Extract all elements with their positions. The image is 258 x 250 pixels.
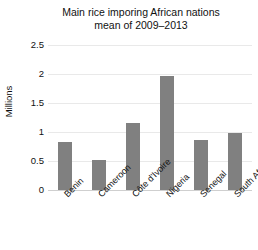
y-axis-tick-label: 0: [8, 185, 44, 195]
chart-title-line-1: Main rice imporing African nations: [28, 6, 254, 19]
y-axis-tick-label: 1.5: [8, 98, 44, 108]
bar-slot: [184, 45, 218, 190]
gridline: [48, 190, 252, 191]
y-axis-tick-label: 0.5: [8, 156, 44, 166]
bar[interactable]: [126, 123, 140, 190]
chart-title-line-2: mean of 2009–2013: [28, 19, 254, 32]
chart-title: Main rice imporing African nations mean …: [28, 6, 254, 32]
y-axis-tick-label: 2: [8, 69, 44, 79]
bar-slot: [48, 45, 82, 190]
y-axis-tick-label: 1: [8, 127, 44, 137]
bar-slot: [218, 45, 252, 190]
y-axis-tick-label: 2.5: [8, 40, 44, 50]
bar-chart: Main rice imporing African nations mean …: [0, 0, 258, 250]
x-axis-category-labels: BeninCameroonCôte d'IvoireNigeriaSenegal…: [48, 192, 258, 250]
bar-slot: [82, 45, 116, 190]
bar[interactable]: [228, 133, 242, 190]
